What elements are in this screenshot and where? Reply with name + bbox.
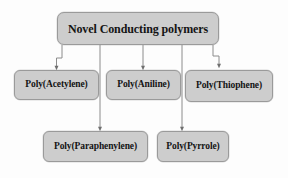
node-pyrrole-label: Poly(Pyrrole) bbox=[164, 142, 221, 152]
node-poly-aniline[interactable]: Poly(Aniline) bbox=[106, 70, 181, 100]
node-root-label: Novel Conducting polymers bbox=[66, 23, 210, 35]
node-thiophene-label: Poly(Thiophene) bbox=[194, 81, 264, 91]
node-novel-conducting-polymers[interactable]: Novel Conducting polymers bbox=[57, 12, 219, 45]
node-paraphenylene-label: Poly(Paraphenylene) bbox=[52, 142, 139, 152]
node-poly-acetylene[interactable]: Poly(Acetylene) bbox=[14, 70, 99, 100]
node-poly-thiophene[interactable]: Poly(Thiophene) bbox=[185, 70, 273, 102]
node-poly-paraphenylene[interactable]: Poly(Paraphenylene) bbox=[43, 131, 148, 162]
edge-root-to-thiophene bbox=[213, 45, 219, 66]
node-acetylene-label: Poly(Acetylene) bbox=[23, 80, 89, 90]
node-poly-pyrrole[interactable]: Poly(Pyrrole) bbox=[157, 131, 229, 162]
diagram-canvas: Novel Conducting polymers Poly(Acetylene… bbox=[0, 0, 288, 178]
edge-root-to-acetylene bbox=[57, 45, 63, 68]
node-aniline-label: Poly(Aniline) bbox=[115, 80, 172, 90]
